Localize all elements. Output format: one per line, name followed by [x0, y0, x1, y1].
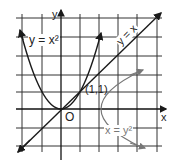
sideways-parabola-label: x = y²	[104, 125, 133, 136]
point-label: (1,1)	[84, 84, 109, 95]
y-axis-label: y	[51, 9, 59, 20]
x-axis-label: x	[160, 112, 168, 123]
graph-figure: y = x² y = x x = y² (1,1) O x y	[0, 0, 176, 166]
origin-label: O	[64, 111, 75, 123]
parabola-label: y = x²	[28, 34, 60, 46]
